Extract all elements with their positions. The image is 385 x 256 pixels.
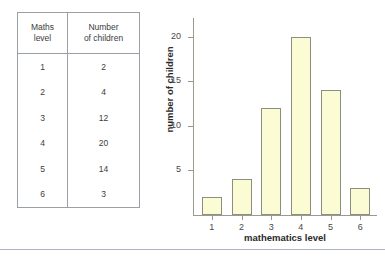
y-axis-tick-mark bbox=[188, 126, 193, 127]
bar-chart: number of children 5101520 123456 mathem… bbox=[148, 10, 380, 248]
table-header-maths-level: Maths level bbox=[18, 13, 68, 53]
table-column-number-of-children: 2 4 12 20 14 3 bbox=[68, 54, 139, 207]
table-cell-level: 4 bbox=[18, 131, 67, 157]
table-cell-level: 1 bbox=[18, 54, 67, 80]
x-axis-tick-label: 2 bbox=[232, 222, 252, 232]
x-axis-tick-label: 3 bbox=[261, 222, 281, 232]
y-axis-tick-mark bbox=[188, 81, 193, 82]
bar bbox=[350, 188, 370, 215]
y-axis-tick-mark bbox=[188, 37, 193, 38]
table-cell-level: 2 bbox=[18, 80, 67, 106]
table-column-maths-level: 1 2 3 4 5 6 bbox=[18, 54, 68, 207]
x-axis-tick-mark bbox=[212, 216, 213, 220]
bar bbox=[321, 90, 341, 215]
table-cell-children: 20 bbox=[68, 131, 139, 157]
y-axis-tick: 20 bbox=[188, 37, 193, 38]
y-axis-tick-label: 10 bbox=[171, 120, 181, 130]
table-cell-level: 5 bbox=[18, 156, 67, 182]
table-header-maths-level-line1: Maths bbox=[31, 22, 54, 33]
table-cell-level: 6 bbox=[18, 182, 67, 208]
y-axis-tick: 10 bbox=[188, 126, 193, 127]
footer-divider bbox=[0, 249, 385, 250]
bar bbox=[232, 179, 252, 215]
x-axis-tick-label: 5 bbox=[321, 222, 341, 232]
bar bbox=[261, 108, 281, 215]
x-axis-tick-mark bbox=[242, 216, 243, 220]
x-axis-tick-mark bbox=[301, 216, 302, 220]
table-cell-level: 3 bbox=[18, 105, 67, 131]
table-cell-children: 4 bbox=[68, 80, 139, 106]
x-axis-tick-label: 6 bbox=[350, 222, 370, 232]
table-cell-children: 12 bbox=[68, 105, 139, 131]
y-axis-tick-label: 20 bbox=[171, 31, 181, 41]
table-cell-children: 2 bbox=[68, 54, 139, 80]
table-header-number-of-children: Number of children bbox=[68, 13, 139, 53]
x-axis-tick-mark bbox=[360, 216, 361, 220]
x-axis-tick-label: 4 bbox=[291, 222, 311, 232]
table-cell-children: 14 bbox=[68, 156, 139, 182]
y-axis-tick: 5 bbox=[188, 170, 193, 171]
y-axis-tick-label: 5 bbox=[176, 164, 181, 174]
x-axis-tick-label: 1 bbox=[202, 222, 222, 232]
x-axis-line bbox=[193, 215, 377, 216]
y-axis-tick: 15 bbox=[188, 81, 193, 82]
table-cell-children: 3 bbox=[68, 182, 139, 208]
y-axis-title: number of children bbox=[164, 25, 175, 155]
table-header-number-of-children-line1: Number bbox=[88, 22, 118, 33]
table-header-row: Maths level Number of children bbox=[18, 13, 139, 54]
x-axis-tick-mark bbox=[331, 216, 332, 220]
plot-area: 5101520 123456 bbox=[193, 18, 371, 216]
table-header-number-of-children-line2: of children bbox=[84, 33, 123, 44]
y-axis-tick-mark bbox=[188, 170, 193, 171]
y-axis-line bbox=[193, 18, 194, 216]
frequency-table: Maths level Number of children 1 2 3 4 5… bbox=[17, 12, 140, 208]
x-axis-title: mathematics level bbox=[193, 232, 377, 243]
bar bbox=[202, 197, 222, 215]
y-axis-tick-label: 15 bbox=[171, 75, 181, 85]
table-header-maths-level-line2: level bbox=[34, 33, 51, 44]
bar bbox=[291, 37, 311, 215]
table-body: 1 2 3 4 5 6 2 4 12 20 14 3 bbox=[18, 54, 139, 207]
x-axis-tick-mark bbox=[271, 216, 272, 220]
